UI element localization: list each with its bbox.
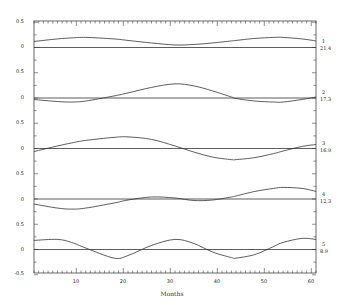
series-value-4: 12.3 [320, 198, 331, 204]
series-value-1: 21.4 [320, 45, 331, 51]
series-value-5: 8.9 [320, 248, 328, 254]
series-curves [34, 37, 316, 258]
x-tick-label: 30 [167, 278, 173, 284]
zero-baselines [34, 48, 316, 250]
y-tick-label: 0.5 [16, 119, 24, 125]
y-tick-label: 0 [21, 94, 24, 100]
curve-series-4 [34, 187, 316, 209]
x-axis-title: Months [161, 290, 184, 297]
x-tick-label: 10 [73, 278, 79, 284]
y-tick-label: 0 [21, 196, 24, 202]
series-value-3: 16.9 [320, 147, 331, 153]
series-name-1: 1 [322, 38, 325, 44]
curve-series-1 [34, 37, 316, 45]
y-tick-label: 0 [21, 145, 24, 151]
x-tick-label: 20 [120, 278, 126, 284]
y-tick-label: 0.5 [16, 221, 24, 227]
y-tick-label: 0.5 [16, 18, 24, 24]
plot-frame [34, 21, 316, 273]
x-tick-label: 40 [214, 278, 220, 284]
series-name-4: 4 [322, 191, 325, 197]
y-tick-label: 0.5 [16, 68, 24, 74]
curve-series-2 [34, 84, 316, 102]
x-tick-label: 50 [261, 278, 267, 284]
series-name-5: 5 [322, 241, 325, 247]
x-tick-label: 60 [308, 278, 314, 284]
y-tick-label: 0 [21, 246, 24, 252]
curve-series-5 [34, 238, 316, 258]
series-name-2: 2 [322, 89, 325, 95]
y-tick-label: 0 [21, 43, 24, 49]
y-tick-label: 0.5 [16, 170, 24, 176]
y-tick-label: -0.5 [14, 270, 24, 276]
chart-canvas: 0.5 0 0.5 0 0.5 0 0.5 0 0.5 0 -0.5 10 20… [0, 0, 346, 307]
x-axis [34, 21, 316, 273]
series-name-3: 3 [322, 140, 325, 146]
series-value-2: 17.3 [320, 96, 331, 102]
